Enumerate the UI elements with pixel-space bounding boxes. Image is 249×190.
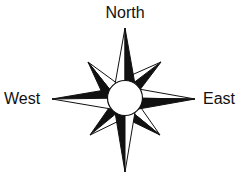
east-label: East (203, 91, 235, 107)
west-label: West (4, 91, 40, 107)
compass-rose-diagram: North West East (0, 0, 249, 190)
north-label: North (105, 5, 144, 21)
